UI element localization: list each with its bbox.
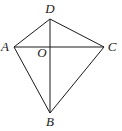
label-B: B — [46, 114, 54, 129]
label-D: D — [44, 1, 55, 16]
label-O: O — [37, 45, 47, 60]
point-labels: A B C D O — [0, 1, 117, 129]
segment-AD — [14, 19, 50, 47]
label-A: A — [0, 39, 9, 54]
edges — [14, 19, 104, 113]
kite-diagram: A B C D O — [0, 0, 122, 131]
label-C: C — [108, 39, 117, 54]
segment-DC — [50, 19, 104, 47]
segment-CB — [50, 47, 104, 113]
